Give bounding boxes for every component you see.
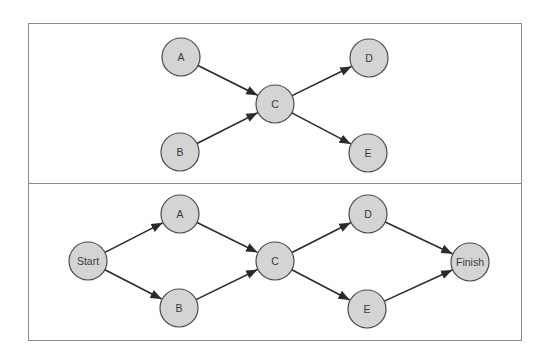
edge-c-to-e <box>292 113 351 144</box>
node-label: A <box>176 208 183 220</box>
bottom-panel-diagram: StartABCDEFinish <box>69 195 489 328</box>
node-label: D <box>364 208 372 220</box>
edge-c-to-d <box>292 223 351 253</box>
node-label: C <box>271 255 279 267</box>
edge-d-to-finish <box>385 222 452 254</box>
node-label: B <box>176 146 183 158</box>
node-label: E <box>364 147 371 159</box>
node-label: C <box>271 98 279 110</box>
edge-b-to-c <box>197 113 258 144</box>
edge-c-to-e <box>292 270 350 300</box>
node-b: B <box>160 289 198 327</box>
top-panel-diagram: ABCDE <box>161 38 388 172</box>
node-label: A <box>177 51 184 63</box>
node-d: D <box>349 195 387 233</box>
node-label: D <box>365 52 373 64</box>
edge-b-to-c <box>196 270 257 300</box>
node-e: E <box>348 290 386 328</box>
node-a: A <box>161 195 199 233</box>
node-label: Finish <box>456 256 484 268</box>
network-diagram: ABCDE StartABCDEFinish <box>0 0 546 357</box>
node-a: A <box>162 38 200 76</box>
node-label: B <box>175 302 182 314</box>
node-finish: Finish <box>451 243 489 281</box>
node-d: D <box>350 39 388 77</box>
edge-a-to-c <box>197 222 257 252</box>
node-label: E <box>363 303 370 315</box>
edge-c-to-d <box>292 67 351 96</box>
diagram-frame <box>29 24 522 341</box>
node-b: B <box>161 133 199 171</box>
edge-start-to-a <box>105 223 163 252</box>
node-start: Start <box>69 242 107 280</box>
node-e: E <box>349 134 387 172</box>
edge-start-to-b <box>105 270 162 299</box>
node-label: Start <box>77 255 99 267</box>
node-c: C <box>256 85 294 123</box>
edge-a-to-c <box>198 65 258 95</box>
edge-e-to-finish <box>384 270 452 301</box>
node-c: C <box>256 242 294 280</box>
